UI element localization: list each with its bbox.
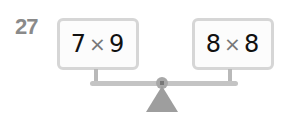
multiply-sign: × xyxy=(89,32,107,56)
left-operand-b: 9 xyxy=(109,30,125,58)
problem-number: 27 xyxy=(15,14,37,40)
right-operand-a: 8 xyxy=(206,30,222,58)
left-expression-card: 7 × 9 xyxy=(57,18,139,70)
multiply-sign: × xyxy=(224,32,242,56)
left-operand-a: 7 xyxy=(71,30,87,58)
right-expression-card: 8 × 8 xyxy=(192,18,274,70)
right-operand-b: 8 xyxy=(244,30,260,58)
fulcrum-triangle-icon xyxy=(146,86,178,112)
